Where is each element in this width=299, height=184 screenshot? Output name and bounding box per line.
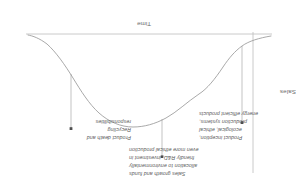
annotation-growth-line2: allocation to environmentally [129, 162, 237, 170]
annotation-inception-line4: energy efficient products [199, 110, 283, 118]
annotation-growth-line4: even more ethical production [129, 146, 237, 154]
annotation-death-line3: responsibilities [39, 118, 131, 126]
y-axis-label: Sales [256, 89, 296, 96]
annotation-death-line1: Product death and [39, 134, 131, 142]
annotation-inception-line2: ecological, ethical [199, 126, 283, 134]
annotation-death: Product death and Recycling responsibili… [39, 118, 131, 142]
annotation-inception-line1: Product inception, [199, 134, 283, 142]
annotation-inception-line3: production systems, [199, 118, 283, 126]
annotation-growth-line3: friendly R&D, investment in [129, 154, 237, 162]
lifecycle-figure: Product inception, ecological, ethical p… [0, 0, 299, 184]
x-axis-label: Time [124, 21, 164, 28]
annotation-growth-line1: Sales growth and funds [129, 170, 237, 178]
annotation-death-line2: Recycling [39, 126, 131, 134]
annotation-inception: Product inception, ecological, ethical p… [199, 110, 283, 142]
annotation-growth: Sales growth and funds allocation to env… [129, 146, 237, 178]
